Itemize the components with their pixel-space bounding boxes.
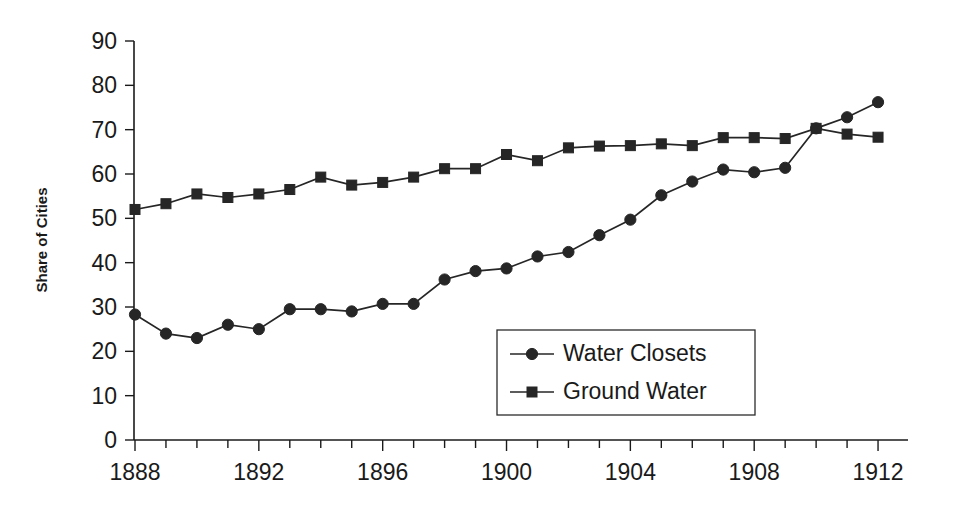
data-point-square — [347, 180, 357, 190]
x-axis-ticks: 1888189218961900190419081912 — [109, 440, 903, 485]
y-tick-label: 20 — [91, 338, 117, 364]
data-point-circle — [718, 164, 729, 175]
line-chart: Share of Cities 0102030405060708090 1888… — [0, 0, 963, 523]
series-2 — [130, 123, 883, 214]
x-tick-label: 1888 — [109, 459, 160, 485]
y-tick-label: 70 — [91, 117, 117, 143]
data-point-square — [749, 133, 759, 143]
data-point-circle — [470, 265, 481, 276]
y-tick-label: 80 — [91, 72, 117, 98]
y-tick-label: 50 — [91, 205, 117, 231]
data-point-square — [409, 172, 419, 182]
data-point-circle — [191, 332, 202, 343]
data-point-square — [130, 204, 140, 214]
x-tick-label: 1904 — [605, 459, 656, 485]
data-point-square — [471, 164, 481, 174]
y-tick-label: 10 — [91, 383, 117, 409]
data-point-circle — [253, 324, 264, 335]
data-point-circle — [563, 246, 574, 257]
y-axis-ticks: 0102030405060708090 — [91, 28, 134, 453]
data-point-circle — [439, 274, 450, 285]
data-point-circle — [532, 251, 543, 262]
y-axis-title: Share of Cities — [33, 187, 50, 292]
data-point-square — [780, 134, 790, 144]
chart-legend: Water ClosetsGround Water — [497, 330, 755, 415]
data-point-square — [873, 132, 883, 142]
x-tick-label: 1896 — [357, 459, 408, 485]
data-point-circle — [780, 162, 791, 173]
y-tick-label: 60 — [91, 161, 117, 187]
y-tick-label: 30 — [91, 294, 117, 320]
legend-marker-square — [527, 387, 537, 397]
data-point-circle — [315, 304, 326, 315]
y-tick-label: 40 — [91, 250, 117, 276]
data-point-circle — [501, 263, 512, 274]
data-point-circle — [749, 167, 760, 178]
data-point-square — [192, 189, 202, 199]
x-tick-label: 1892 — [233, 459, 284, 485]
data-point-square — [625, 141, 635, 151]
data-point-square — [316, 172, 326, 182]
data-point-square — [656, 139, 666, 149]
data-point-square — [378, 177, 388, 187]
data-point-circle — [594, 230, 605, 241]
legend-marker-circle — [526, 348, 537, 359]
data-point-square — [687, 141, 697, 151]
data-point-square — [842, 129, 852, 139]
data-point-square — [502, 149, 512, 159]
data-point-circle — [656, 190, 667, 201]
data-point-square — [594, 141, 604, 151]
y-tick-label: 0 — [104, 427, 117, 453]
x-tick-label: 1912 — [852, 459, 903, 485]
data-point-square — [563, 143, 573, 153]
chart-container: Share of Cities 0102030405060708090 1888… — [0, 0, 963, 523]
data-point-circle — [346, 306, 357, 317]
x-tick-label: 1908 — [729, 459, 780, 485]
data-point-square — [285, 185, 295, 195]
data-point-square — [532, 156, 542, 166]
legend-label: Water Closets — [563, 340, 707, 366]
data-point-circle — [160, 328, 171, 339]
data-point-circle — [129, 309, 140, 320]
series-layer — [129, 97, 883, 344]
data-point-square — [254, 189, 264, 199]
data-point-square — [718, 133, 728, 143]
data-point-circle — [222, 319, 233, 330]
data-point-square — [440, 164, 450, 174]
data-point-circle — [377, 298, 388, 309]
data-point-circle — [408, 298, 419, 309]
data-point-square — [811, 123, 821, 133]
data-point-square — [223, 192, 233, 202]
data-point-circle — [841, 112, 852, 123]
x-tick-label: 1900 — [481, 459, 532, 485]
data-point-circle — [625, 214, 636, 225]
data-point-circle — [284, 304, 295, 315]
legend-label: Ground Water — [563, 378, 707, 404]
data-point-circle — [687, 176, 698, 187]
data-point-square — [161, 199, 171, 209]
series-1 — [129, 97, 883, 344]
data-point-circle — [872, 97, 883, 108]
y-tick-label: 90 — [91, 28, 117, 54]
series-line — [135, 128, 878, 209]
